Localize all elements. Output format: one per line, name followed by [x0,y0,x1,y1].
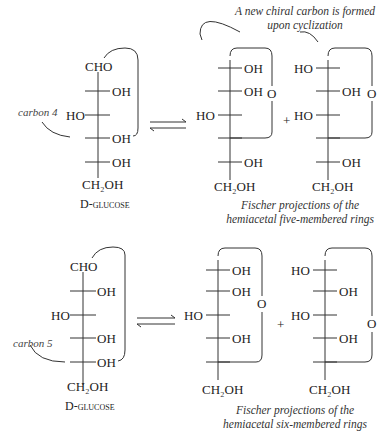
ch2oh-label: CH₂OH [67,380,108,393]
ring-o-label: O [267,87,276,100]
glucose-label: D-glucose [80,198,130,211]
oh-label: OH [339,332,358,345]
oh-label: OH [232,285,251,298]
ho-label: HO [184,309,203,322]
ch2oh-label: CH₂OH [309,383,350,396]
ch2oh-label: CH₂OH [214,180,255,193]
ch2oh-label: CH₂OH [202,383,243,396]
ch2oh-label: CH₂OH [312,180,353,193]
oh-label: OH [97,356,116,369]
annotation-text: A new chiral carbon is formedupon cycliz… [230,4,380,32]
oh-label: OH [232,332,251,345]
ring-o-label: O [367,317,376,330]
ho-label: HO [291,264,310,277]
oh-label: OH [112,132,131,145]
oh-label: OH [244,156,263,169]
carbon-4-label: carbon 4 [18,106,57,118]
ring-o-label: O [367,87,376,100]
oh-label: OH [112,156,131,169]
ch2oh-label: CH₂OH [82,178,123,191]
oh-label: OH [97,285,116,298]
ho-label: HO [294,109,313,122]
oh-label: OH [342,156,361,169]
oh-label: OH [244,85,263,98]
ho-label: HO [51,309,70,322]
oh-label: OH [339,285,358,298]
ho-label: HO [66,109,85,122]
plus-sign: + [283,114,290,127]
cho-label: CHO [85,60,112,73]
cho-label: CHO [70,260,97,273]
carbon-5-label: carbon 5 [13,337,52,349]
ring-o-label: O [257,297,266,310]
glucose-label: D-glucose [65,400,115,413]
caption-six: Fischer projections of thehemiacetal six… [210,403,380,431]
plus-sign: + [277,318,284,331]
oh-label: OH [342,85,361,98]
ho-label: HO [196,109,215,122]
oh-label: OH [232,264,251,277]
oh-label: OH [97,332,116,345]
ho-label: HO [294,62,313,75]
oh-label: OH [112,85,131,98]
oh-label: OH [244,62,263,75]
caption-five: Fischer projections of thehemiacetal fiv… [215,198,385,226]
ho-label: HO [291,309,310,322]
